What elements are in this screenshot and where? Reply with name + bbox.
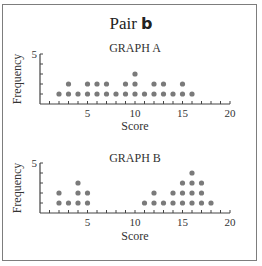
- data-dot: [75, 91, 80, 96]
- data-dot: [123, 91, 128, 96]
- x-tick-label: 15: [177, 107, 189, 119]
- data-dot: [151, 81, 156, 86]
- data-dot: [199, 200, 204, 205]
- graph-b: GRAPH B55101520ScoreFrequency: [10, 151, 236, 243]
- data-dot: [85, 81, 90, 86]
- graph-a: GRAPH A55101520ScoreFrequency: [10, 41, 236, 133]
- data-dot: [170, 91, 175, 96]
- data-dot: [56, 91, 61, 96]
- y-tick-label: 5: [32, 157, 38, 169]
- data-dot: [104, 81, 109, 86]
- data-dot: [142, 91, 147, 96]
- graph-title: GRAPH B: [109, 151, 161, 165]
- y-tick-label: 5: [32, 48, 38, 60]
- data-dot: [94, 91, 99, 96]
- x-axis-label: Score: [121, 119, 148, 133]
- data-dot: [189, 170, 194, 175]
- data-dot: [132, 91, 137, 96]
- data-dot: [189, 91, 194, 96]
- data-dot: [85, 190, 90, 195]
- data-dot: [132, 81, 137, 86]
- data-dot: [180, 91, 185, 96]
- data-dot: [75, 180, 80, 185]
- data-dot: [113, 91, 118, 96]
- y-axis-label: Frequency: [10, 54, 24, 105]
- data-dot: [189, 190, 194, 195]
- data-dot: [104, 91, 109, 96]
- data-dot: [123, 81, 128, 86]
- data-dot: [161, 81, 166, 86]
- data-dot: [151, 190, 156, 195]
- data-dot: [170, 200, 175, 205]
- data-dot: [56, 200, 61, 205]
- y-axis-label: Frequency: [10, 163, 24, 214]
- data-dot: [75, 200, 80, 205]
- data-dot: [151, 200, 156, 205]
- data-dot: [66, 91, 71, 96]
- data-dot: [180, 200, 185, 205]
- data-dot: [208, 200, 213, 205]
- data-dot: [180, 81, 185, 86]
- data-dot: [161, 91, 166, 96]
- data-dot: [199, 190, 204, 195]
- data-dot: [132, 71, 137, 76]
- data-dot: [170, 190, 175, 195]
- graph-title: GRAPH A: [109, 41, 161, 55]
- data-dot: [189, 200, 194, 205]
- data-dot: [85, 91, 90, 96]
- x-tick-label: 10: [130, 107, 142, 119]
- data-dot: [75, 190, 80, 195]
- x-tick-label: 10: [130, 216, 142, 228]
- dot-plots: GRAPH A55101520ScoreFrequencyGRAPH B5510…: [0, 0, 262, 266]
- data-dot: [66, 81, 71, 86]
- data-dot: [189, 180, 194, 185]
- data-dot: [94, 81, 99, 86]
- data-dot: [142, 200, 147, 205]
- x-tick-label: 20: [225, 107, 237, 119]
- data-dot: [151, 91, 156, 96]
- data-dot: [199, 180, 204, 185]
- data-dot: [180, 190, 185, 195]
- x-tick-label: 20: [225, 216, 237, 228]
- data-dot: [56, 190, 61, 195]
- x-tick-label: 5: [85, 107, 91, 119]
- data-dot: [85, 200, 90, 205]
- x-axis-label: Score: [121, 229, 148, 243]
- x-tick-label: 15: [177, 216, 189, 228]
- data-dot: [161, 200, 166, 205]
- data-dot: [180, 180, 185, 185]
- data-dot: [66, 200, 71, 205]
- x-tick-label: 5: [85, 216, 91, 228]
